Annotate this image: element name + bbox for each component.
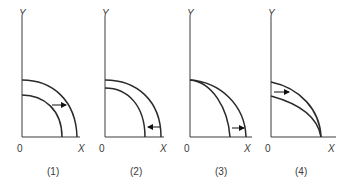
panel-1 — [22, 17, 80, 137]
panel-2-caption: (2) — [130, 166, 142, 177]
panel-4-x-label: X — [327, 143, 335, 154]
panel-1-y-label: Y — [19, 8, 27, 19]
panel-2 — [105, 17, 164, 137]
inner-curve — [105, 88, 145, 137]
panel-2-origin: 0 — [99, 143, 105, 154]
panel-3-x-label: X — [243, 143, 251, 154]
panel-4-caption: (4) — [295, 166, 307, 177]
outer-curve — [22, 80, 77, 137]
panel-4-origin: 0 — [265, 143, 271, 154]
panel-2-y-label: Y — [102, 8, 110, 19]
panel-3 — [190, 17, 252, 137]
inner-curve — [22, 95, 62, 137]
panel-1-caption: (1) — [47, 166, 59, 177]
panel-4-y-label: Y — [268, 8, 276, 19]
panel-1-x-label: X — [77, 143, 85, 154]
ppf-diagram: Y X 0 (1) Y X 0 (2) Y X 0 (3) Y X 0 (4) — [0, 0, 352, 186]
inner-curve — [190, 80, 230, 137]
panel-1-origin: 0 — [17, 143, 23, 154]
panel-3-caption: (3) — [215, 166, 227, 177]
panel-3-y-label: Y — [187, 8, 195, 19]
inner-curve — [271, 96, 321, 137]
panel-2-x-label: X — [159, 143, 167, 154]
panel-4 — [271, 17, 336, 137]
outer-curve — [271, 82, 321, 137]
panel-3-origin: 0 — [184, 143, 190, 154]
